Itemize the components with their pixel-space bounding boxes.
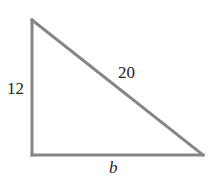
vertical-leg-label: 12 bbox=[7, 80, 24, 97]
hypotenuse bbox=[32, 20, 203, 155]
base-label: b bbox=[109, 159, 118, 176]
hypotenuse-label: 20 bbox=[118, 64, 135, 81]
right-triangle-diagram: 12 20 b bbox=[0, 0, 220, 187]
